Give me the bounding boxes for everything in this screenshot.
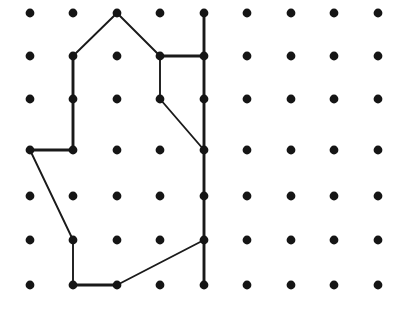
- peg-c8-r4[interactable]: [330, 146, 339, 155]
- peg-c1-r7[interactable]: [26, 281, 35, 290]
- peg-c3-r2[interactable]: [113, 52, 122, 61]
- peg-c2-r7[interactable]: [69, 281, 78, 290]
- peg-c4-r5[interactable]: [156, 192, 165, 201]
- peg-c7-r1[interactable]: [287, 9, 296, 18]
- peg-c4-r4[interactable]: [156, 146, 165, 155]
- peg-c3-r1[interactable]: [113, 9, 122, 18]
- peg-c1-r3[interactable]: [26, 95, 35, 104]
- peg-c4-r1[interactable]: [156, 9, 165, 18]
- peg-c3-r7[interactable]: [113, 281, 122, 290]
- peg-c5-r2[interactable]: [200, 52, 209, 61]
- peg-c5-r6[interactable]: [200, 236, 209, 245]
- peg-c1-r2[interactable]: [26, 52, 35, 61]
- peg-c9-r3[interactable]: [374, 95, 383, 104]
- board-background: [0, 0, 413, 314]
- peg-c3-r6[interactable]: [113, 236, 122, 245]
- peg-c2-r3[interactable]: [69, 95, 78, 104]
- peg-c4-r6[interactable]: [156, 236, 165, 245]
- peg-c8-r2[interactable]: [330, 52, 339, 61]
- peg-c9-r2[interactable]: [374, 52, 383, 61]
- peg-c1-r5[interactable]: [26, 192, 35, 201]
- peg-c3-r5[interactable]: [113, 192, 122, 201]
- peg-c6-r1[interactable]: [243, 9, 252, 18]
- peg-c9-r6[interactable]: [374, 236, 383, 245]
- peg-c2-r4[interactable]: [69, 146, 78, 155]
- peg-c7-r4[interactable]: [287, 146, 296, 155]
- peg-c5-r4[interactable]: [200, 146, 209, 155]
- peg-c6-r4[interactable]: [243, 146, 252, 155]
- peg-c9-r4[interactable]: [374, 146, 383, 155]
- geoboard-canvas[interactable]: [0, 0, 413, 314]
- peg-c4-r2[interactable]: [156, 52, 165, 61]
- peg-c9-r1[interactable]: [374, 9, 383, 18]
- peg-c9-r7[interactable]: [374, 281, 383, 290]
- peg-c1-r4[interactable]: [26, 146, 35, 155]
- peg-c7-r6[interactable]: [287, 236, 296, 245]
- peg-c2-r5[interactable]: [69, 192, 78, 201]
- peg-c8-r6[interactable]: [330, 236, 339, 245]
- peg-c6-r6[interactable]: [243, 236, 252, 245]
- peg-c4-r3[interactable]: [156, 95, 165, 104]
- peg-c1-r6[interactable]: [26, 236, 35, 245]
- peg-c3-r3[interactable]: [113, 95, 122, 104]
- peg-c7-r2[interactable]: [287, 52, 296, 61]
- peg-c2-r1[interactable]: [69, 9, 78, 18]
- peg-c5-r5[interactable]: [200, 192, 209, 201]
- peg-c2-r2[interactable]: [69, 52, 78, 61]
- peg-c6-r7[interactable]: [243, 281, 252, 290]
- peg-c5-r3[interactable]: [200, 95, 209, 104]
- peg-c4-r7[interactable]: [156, 281, 165, 290]
- peg-c1-r1[interactable]: [26, 9, 35, 18]
- peg-c6-r5[interactable]: [243, 192, 252, 201]
- peg-c5-r1[interactable]: [200, 9, 209, 18]
- peg-c8-r1[interactable]: [330, 9, 339, 18]
- peg-c7-r7[interactable]: [287, 281, 296, 290]
- peg-c8-r5[interactable]: [330, 192, 339, 201]
- peg-c9-r5[interactable]: [374, 192, 383, 201]
- peg-c8-r7[interactable]: [330, 281, 339, 290]
- peg-c2-r6[interactable]: [69, 236, 78, 245]
- peg-c6-r3[interactable]: [243, 95, 252, 104]
- peg-c7-r3[interactable]: [287, 95, 296, 104]
- geoboard-svg: [0, 0, 413, 314]
- peg-c7-r5[interactable]: [287, 192, 296, 201]
- peg-c6-r2[interactable]: [243, 52, 252, 61]
- peg-c8-r3[interactable]: [330, 95, 339, 104]
- peg-c5-r7[interactable]: [200, 281, 209, 290]
- peg-c3-r4[interactable]: [113, 146, 122, 155]
